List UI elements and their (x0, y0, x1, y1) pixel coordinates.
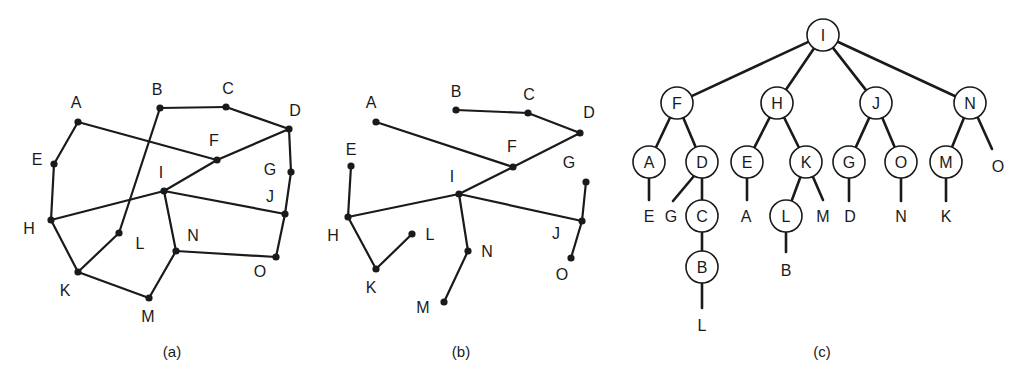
edge-i-j (459, 194, 582, 221)
tree-node-c: C (686, 200, 718, 232)
tree-node-d: D (686, 146, 718, 178)
node-label: J (872, 95, 880, 112)
edge-n-o (176, 251, 276, 257)
vertex-i (455, 190, 462, 197)
edge-j-g (582, 182, 586, 221)
vertex-c (524, 109, 531, 116)
vertex-m (145, 294, 152, 301)
vertex-k (372, 265, 379, 272)
leaf-label-l: L (698, 317, 707, 334)
tree-edge-n-m (952, 117, 965, 148)
vertex-k (74, 268, 81, 275)
vertex-h (47, 216, 54, 223)
leaf-label-a: A (741, 208, 752, 225)
leaf-edge (673, 176, 694, 201)
tree-node-g: G (833, 146, 865, 178)
vertex-label: H (23, 220, 35, 237)
node-label: B (697, 259, 708, 276)
vertex-d (576, 129, 583, 136)
vertex-e (50, 160, 57, 167)
edge-m-n (149, 251, 176, 298)
tree-edge-j-o (882, 117, 895, 148)
vertex-i (160, 187, 167, 194)
figure-caption: (a) (163, 343, 181, 360)
node-label: N (964, 95, 976, 112)
vertex-label: F (507, 138, 517, 155)
tree-node-k: K (790, 146, 822, 178)
edge-b-l (119, 108, 160, 233)
leaf-label-o: O (992, 158, 1004, 175)
spanning-tree-b: ABCDEFGHIJKLMNO(b) (327, 83, 595, 360)
leaf-label-d: D (844, 208, 856, 225)
leaf-label-g: G (665, 208, 677, 225)
vertex-label: N (187, 227, 199, 244)
tree-node-b: B (686, 251, 718, 283)
node-label: A (644, 154, 655, 171)
edge-k-m (78, 272, 149, 298)
vertex-e (347, 162, 354, 169)
edge-f-i (459, 167, 513, 194)
vertex-label: A (71, 94, 82, 111)
node-label: E (742, 154, 753, 171)
vertex-label: O (254, 263, 266, 280)
edge-i-n (459, 194, 468, 251)
node-label: M (939, 154, 952, 171)
tree-edge-i-h (785, 47, 814, 90)
vertex-c (222, 103, 229, 110)
leaf-label-k: K (941, 208, 952, 225)
edge-j-o (571, 221, 582, 258)
edge-b-c (456, 110, 528, 113)
vertex-label: N (481, 243, 493, 260)
edge-h-e (348, 166, 351, 217)
vertex-label: O (556, 266, 568, 283)
vertex-g (287, 168, 294, 175)
edge-d-f (217, 129, 289, 160)
vertex-label: C (222, 80, 234, 97)
vertex-a (74, 118, 81, 125)
leaf-label-e: E (644, 208, 655, 225)
tree-node-a: A (633, 146, 665, 178)
edge-d-g (289, 129, 291, 172)
edge-h-k (51, 220, 78, 272)
tree-edge-h-k (784, 116, 800, 148)
vertex-a (372, 118, 379, 125)
edge-a-f (78, 122, 217, 160)
edge-b-c (160, 107, 226, 108)
vertex-label: K (366, 279, 377, 296)
vertex-label: D (583, 104, 595, 121)
leaf-label-m: M (816, 208, 829, 225)
tree-edge-k-l (791, 176, 801, 202)
leaf-edge (978, 118, 992, 149)
tree-edge-i-n (837, 41, 957, 96)
tree-node-m: M (930, 146, 962, 178)
tree-edge-f-a (655, 117, 670, 149)
node-label: D (696, 154, 708, 171)
vertex-o (272, 253, 279, 260)
vertex-label: A (366, 94, 377, 111)
edge-h-k (348, 217, 376, 269)
vertex-label: K (60, 282, 71, 299)
figure-caption: (b) (452, 343, 470, 360)
vertex-label: G (563, 154, 575, 171)
vertex-h (344, 213, 351, 220)
vertex-d (285, 125, 292, 132)
vertex-label: M (141, 308, 154, 325)
graph-a: ABCDEFGHIJKLMNO(a) (23, 80, 301, 360)
vertex-j (578, 217, 585, 224)
vertex-l (408, 230, 415, 237)
tree-node-l: L (770, 200, 802, 232)
edge-f-i (164, 160, 217, 191)
tree-node-n: N (954, 87, 986, 119)
rooted-tree-c: EGAMDNKOBLIFHJNADEKGOMCBL(c) (633, 19, 1004, 360)
node-label: G (843, 154, 855, 171)
vertex-l (115, 229, 122, 236)
vertex-label: E (32, 151, 43, 168)
vertex-label: J (266, 188, 274, 205)
figure-caption: (c) (813, 343, 831, 360)
vertex-label: I (450, 168, 454, 185)
vertex-g (582, 178, 589, 185)
vertex-label: L (136, 235, 145, 252)
vertex-label: D (289, 102, 301, 119)
edge-g-j (285, 172, 291, 214)
node-label: F (672, 95, 682, 112)
